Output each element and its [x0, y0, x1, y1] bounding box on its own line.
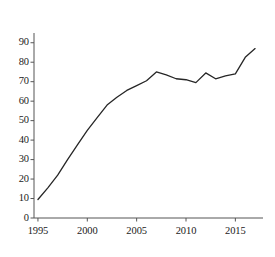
x-axis-tick-marks	[38, 218, 235, 222]
data-series-line	[38, 49, 255, 200]
y-axis-tick-label: 10	[7, 193, 29, 204]
y-axis-tick-label: 30	[7, 154, 29, 165]
x-axis-tick-label: 2000	[67, 226, 107, 237]
x-axis-tick-label: 1995	[18, 226, 58, 237]
y-axis-tick-label: 40	[7, 135, 29, 146]
y-axis-tick-label: 70	[7, 76, 29, 87]
x-axis-tick-label: 2015	[215, 226, 255, 237]
line-chart-figure: 0102030405060708090 19952000200520102015	[0, 0, 275, 257]
y-axis-tick-label: 90	[7, 37, 29, 48]
x-axis-tick-label: 2005	[117, 226, 157, 237]
y-axis-tick-marks	[31, 43, 35, 218]
x-axis-tick-label: 2010	[166, 226, 206, 237]
y-axis-tick-label: 80	[7, 57, 29, 68]
axes-group	[34, 33, 263, 218]
chart-plot-area	[0, 0, 275, 257]
y-axis-tick-label: 50	[7, 115, 29, 126]
y-axis-tick-label: 0	[7, 213, 29, 224]
y-axis-tick-label: 60	[7, 96, 29, 107]
y-axis-tick-label: 20	[7, 174, 29, 185]
